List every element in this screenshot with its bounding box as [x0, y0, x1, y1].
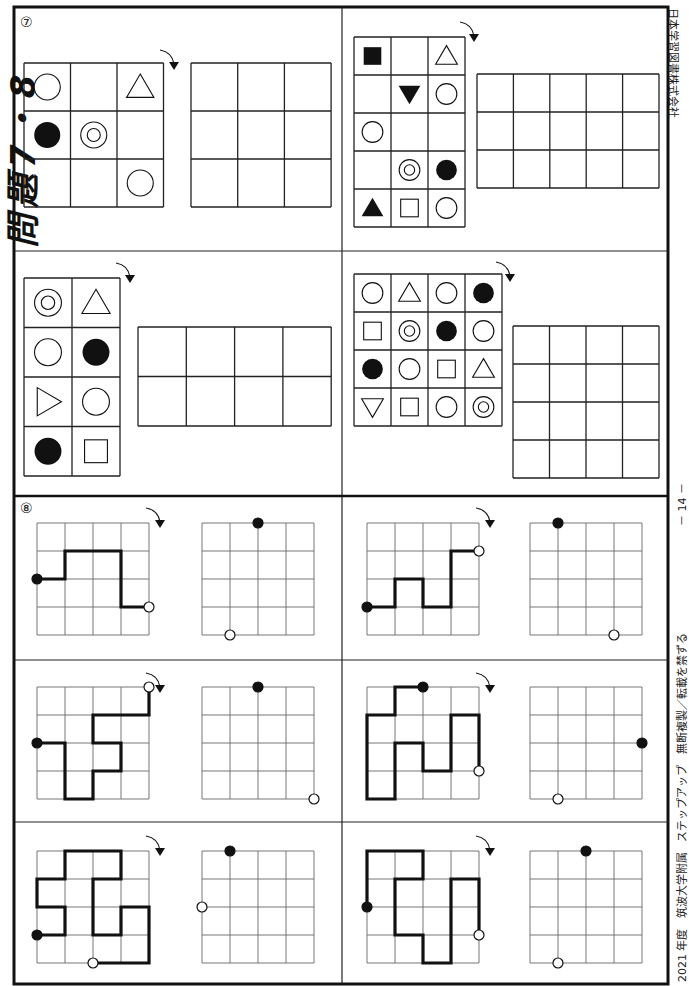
- start-dot-icon: [253, 682, 263, 692]
- start-dot-icon: [418, 682, 428, 692]
- circle-shape: [436, 84, 457, 105]
- filled-circle-shape: [83, 339, 110, 366]
- circle-shape: [436, 198, 457, 219]
- triangle-up-shape: [473, 359, 495, 378]
- end-dot-icon: [553, 958, 563, 968]
- rotate-arrow-icon: [116, 263, 135, 283]
- answer-grid-q7-1[interactable]: [191, 63, 331, 207]
- filled-circle-shape: [362, 359, 383, 380]
- filled-square-shape: [364, 47, 382, 65]
- start-dot-icon: [32, 738, 42, 748]
- start-dot-icon: [253, 518, 263, 528]
- maze-answer-q8-5[interactable]: [197, 846, 314, 963]
- end-dot-icon: [144, 602, 154, 612]
- triangle-up-shape: [82, 289, 110, 313]
- circle-shape: [35, 339, 62, 366]
- filled-circle-shape: [436, 321, 457, 342]
- end-dot-icon: [553, 794, 563, 804]
- square-shape: [401, 199, 419, 217]
- start-dot-icon: [32, 930, 42, 940]
- circle-shape: [436, 397, 457, 418]
- answer-grid-q7-4[interactable]: [513, 326, 659, 478]
- start-dot-icon: [362, 602, 372, 612]
- end-dot-icon: [88, 958, 98, 968]
- start-dot-icon: [581, 846, 591, 856]
- maze-q8-4: [367, 682, 484, 799]
- circle-shape: [83, 388, 110, 415]
- start-dot-icon: [32, 574, 42, 584]
- end-dot-icon: [474, 546, 484, 556]
- square-shape: [401, 398, 419, 416]
- end-dot-icon: [225, 630, 235, 640]
- circle-shape: [436, 283, 457, 304]
- maze-q8-3: [32, 682, 154, 799]
- start-dot-icon: [553, 518, 563, 528]
- maze-answer-q8-2[interactable]: [530, 518, 642, 640]
- end-dot-icon: [309, 794, 319, 804]
- maze-q8-2: [362, 523, 484, 635]
- start-dot-icon: [362, 902, 372, 912]
- maze-answer-q8-3[interactable]: [202, 682, 319, 804]
- page-frame: [14, 7, 668, 984]
- triangle-down-shape: [362, 399, 384, 418]
- triangle-up-shape: [399, 283, 421, 302]
- end-dot-icon: [144, 682, 154, 692]
- start-dot-icon: [637, 738, 647, 748]
- maze-answer-q8-1[interactable]: [202, 518, 314, 640]
- start-dot-icon: [225, 846, 235, 856]
- circle-shape: [127, 170, 153, 196]
- answer-grid-q7-3[interactable]: [138, 327, 331, 426]
- end-dot-icon: [474, 930, 484, 940]
- filled-circle-shape: [473, 283, 494, 304]
- maze-answer-q8-6[interactable]: [530, 846, 642, 968]
- circle-shape: [399, 359, 420, 380]
- triangle-up-shape: [436, 46, 458, 65]
- maze-q8-5: [32, 851, 149, 968]
- filled-circle-shape: [436, 160, 457, 181]
- shape-grid-q7-1: [24, 63, 164, 207]
- answer-grid-q7-2[interactable]: [477, 74, 659, 188]
- filled-triangle-down-shape: [399, 86, 421, 105]
- filled-circle-shape: [34, 122, 60, 148]
- maze-answer-q8-4[interactable]: [530, 687, 647, 804]
- filled-triangle-up-shape: [362, 198, 384, 217]
- end-dot-icon: [197, 902, 207, 912]
- triangle-up-shape: [127, 74, 154, 97]
- circle-shape: [362, 122, 383, 143]
- shape-grid-q7-3: [24, 278, 120, 476]
- maze-q8-6: [362, 851, 484, 963]
- square-shape: [438, 360, 456, 378]
- triangle-right-shape: [37, 388, 61, 416]
- circle-shape: [362, 283, 383, 304]
- rotate-arrow-icon: [496, 262, 515, 282]
- filled-circle-shape: [35, 438, 62, 465]
- end-dot-icon: [474, 766, 484, 776]
- square-shape: [85, 440, 108, 463]
- worksheet-page: 問題7・8 ⑦ ⑧ 日本学習図書株式会社 2021 年度 筑波大学附属 ステップ…: [0, 0, 689, 986]
- maze-q8-1: [32, 523, 154, 635]
- shape-grid-q7-2: [354, 37, 465, 227]
- rotate-arrow-icon: [460, 22, 479, 42]
- circle-shape: [34, 74, 60, 100]
- worksheet-canvas: [0, 0, 689, 986]
- end-dot-icon: [609, 630, 619, 640]
- square-shape: [364, 322, 382, 340]
- shape-grid-q7-4: [354, 274, 502, 426]
- circle-shape: [473, 321, 494, 342]
